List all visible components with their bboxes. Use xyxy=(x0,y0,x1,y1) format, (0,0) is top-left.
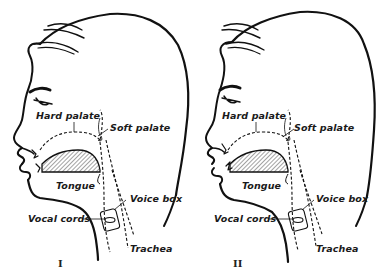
label-tongue-2: Tongue xyxy=(242,180,281,191)
label-voice-box-2: Voice box xyxy=(316,193,368,204)
speech-anatomy-diagram: Hard palate Soft palate Tongue Voice box… xyxy=(0,0,392,279)
figure-numeral-1: I xyxy=(58,258,63,269)
label-trachea-2: Trachea xyxy=(316,243,358,254)
label-vocal-cords-1: Vocal cords xyxy=(28,213,90,224)
label-hard-palate-2: Hard palate xyxy=(222,110,286,121)
figure-1-voice-box xyxy=(100,208,120,231)
label-trachea-1: Trachea xyxy=(130,243,172,254)
label-voice-box-1: Voice box xyxy=(130,193,182,204)
label-vocal-cords-2: Vocal cords xyxy=(214,213,276,224)
figure-2-voice-box xyxy=(288,208,308,231)
label-hard-palate-1: Hard palate xyxy=(36,110,100,121)
anatomy-illustration xyxy=(0,0,392,279)
label-soft-palate-1: Soft palate xyxy=(110,122,170,133)
figure-numeral-2: II xyxy=(233,258,242,269)
figure-2-tongue xyxy=(230,150,288,172)
label-tongue-1: Tongue xyxy=(56,180,95,191)
label-soft-palate-2: Soft palate xyxy=(294,122,354,133)
figure-1-tongue xyxy=(42,150,100,172)
